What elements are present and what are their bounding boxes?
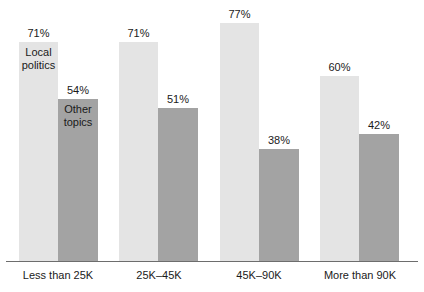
bar-other-topics-45k-90k[interactable]: 38% <box>259 149 299 262</box>
series-label-local-politics: Local politics <box>19 46 58 72</box>
bar-local-politics-more-than-90k[interactable]: 60% <box>320 76 359 262</box>
x-axis-line <box>6 261 418 262</box>
bar-value-label: 77% <box>228 8 250 21</box>
bar-value-label: 38% <box>268 134 290 147</box>
bar-value-label: 60% <box>328 61 350 74</box>
bar-value-label: 42% <box>368 119 390 132</box>
series-label-other-topics: Other topics <box>58 103 98 129</box>
plot-area: 71% Local politics 54% Other topics 71% … <box>0 0 424 262</box>
bar-value-label: 71% <box>127 27 149 40</box>
bar-local-politics-less-than-25k[interactable]: 71% Local politics <box>19 42 58 262</box>
x-axis-label-more-than-90k: More than 90K <box>310 268 410 282</box>
x-axis-label-45k-90k: 45K–90K <box>213 268 305 282</box>
bar-chart: 71% Local politics 54% Other topics 71% … <box>0 0 424 292</box>
bar-other-topics-25k-45k[interactable]: 51% <box>158 108 198 262</box>
bar-local-politics-45k-90k[interactable]: 77% <box>220 23 259 262</box>
x-axis-label-less-than-25k: Less than 25K <box>8 268 108 282</box>
bar-value-label: 54% <box>67 84 89 97</box>
bar-other-topics-more-than-90k[interactable]: 42% <box>359 134 399 262</box>
bar-value-label: 71% <box>27 27 49 40</box>
x-axis-label-25k-45k: 25K–45K <box>113 268 205 282</box>
bar-other-topics-less-than-25k[interactable]: 54% Other topics <box>58 99 98 262</box>
bar-local-politics-25k-45k[interactable]: 71% <box>119 42 158 262</box>
bar-value-label: 51% <box>167 93 189 106</box>
